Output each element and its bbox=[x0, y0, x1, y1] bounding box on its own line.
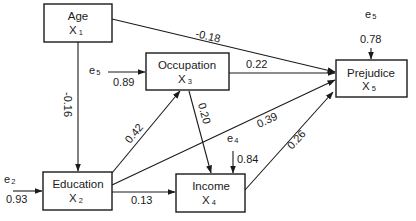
coef-age-prejudice: -0.18 bbox=[195, 27, 222, 44]
error-coef-prejudice: 0.78 bbox=[360, 33, 381, 45]
error-label-prejudice: e5 bbox=[365, 8, 376, 21]
node-occupation-name: Occupation bbox=[158, 59, 216, 71]
coef-income-prejudice: 0.26 bbox=[285, 127, 308, 151]
error-coef-occupation: 0.89 bbox=[113, 76, 134, 88]
coef-age-education: -0.16 bbox=[62, 92, 74, 117]
node-income-name: Income bbox=[192, 180, 230, 192]
error-label-occupation: e5 bbox=[89, 64, 100, 77]
error-label-education: e2 bbox=[4, 173, 15, 186]
coef-occupation-prejudice: 0.22 bbox=[246, 58, 267, 70]
node-education-name: Education bbox=[52, 178, 103, 190]
error-coef-income: 0.84 bbox=[237, 153, 258, 165]
node-age: Age X1 bbox=[44, 4, 112, 42]
coef-education-occupation: 0.42 bbox=[122, 121, 145, 145]
node-education: Education X2 bbox=[43, 172, 112, 210]
node-prejudice: Prejudice X5 bbox=[336, 60, 407, 97]
coef-education-income: 0.13 bbox=[131, 194, 152, 206]
node-age-name: Age bbox=[68, 10, 88, 22]
node-occupation: Occupation X3 bbox=[146, 53, 229, 90]
coef-education-prejudice: 0.39 bbox=[255, 110, 279, 130]
path-diagram: Age X1 Occupation X3 Prejudice X5 Educat… bbox=[0, 0, 416, 221]
node-income: Income X4 bbox=[176, 174, 245, 212]
coef-occupation-income: 0.20 bbox=[196, 101, 213, 125]
error-coef-education: 0.93 bbox=[6, 193, 27, 205]
node-prejudice-name: Prejudice bbox=[347, 67, 395, 79]
edge-education-occupation bbox=[112, 91, 180, 173]
error-label-income: e4 bbox=[227, 132, 238, 145]
